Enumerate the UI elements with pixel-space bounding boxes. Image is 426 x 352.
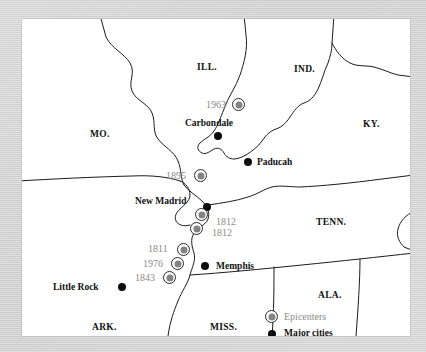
epicenter-year-1812-b: 1812 <box>212 228 232 238</box>
epicenter-marker-1843 <box>163 271 176 284</box>
city-dot-memphis <box>201 262 209 270</box>
border-kentucky-northeast <box>332 43 410 77</box>
legend-label-cities: Major cities <box>284 328 333 336</box>
epicenter-year-1811: 1811 <box>148 244 168 254</box>
river-mississippi-upper <box>100 19 184 185</box>
border-tennessee-east <box>397 211 410 251</box>
state-label-mo: MO. <box>90 130 110 140</box>
state-label-ill: ILL. <box>197 63 217 73</box>
city-dot-carbondale <box>214 132 222 140</box>
legend-city-icon <box>268 330 276 336</box>
epicenter-year-1812-a: 1812 <box>216 217 236 227</box>
epicenter-year-1843: 1843 <box>135 273 155 283</box>
state-label-ind: IND. <box>294 65 315 75</box>
city-label-little-rock: Little Rock <box>53 283 99 293</box>
river-ohio <box>198 19 247 159</box>
epicenter-marker-1812-b <box>190 222 203 235</box>
city-label-new-madrid: New Madrid <box>135 197 186 207</box>
city-label-memphis: Memphis <box>216 262 254 272</box>
border-kentucky-tennessee <box>208 175 410 205</box>
border-alabama-east <box>356 259 360 336</box>
state-label-ark: ARK. <box>92 323 117 333</box>
city-dot-paducah <box>244 158 252 166</box>
map-panel: ILL. IND. KY. MO. TENN. ARK. MISS. ALA. … <box>22 19 410 336</box>
state-label-tenn: TENN. <box>316 218 346 228</box>
border-missouri-arkansas <box>22 176 180 181</box>
state-label-ky: KY. <box>363 120 380 130</box>
epicenter-year-1895: 1895 <box>166 171 186 181</box>
border-kentucky-north <box>246 19 334 155</box>
state-label-ala: ALA. <box>318 291 342 301</box>
city-label-carbondale: Carbondale <box>185 119 233 129</box>
screenshot-frame: ILL. IND. KY. MO. TENN. ARK. MISS. ALA. … <box>0 0 426 352</box>
epicenter-year-1976: 1976 <box>143 259 163 269</box>
city-label-paducah: Paducah <box>257 158 292 168</box>
legend-epicenter-icon <box>265 310 278 323</box>
epicenter-marker-1895 <box>194 169 207 182</box>
epicenter-marker-1811 <box>177 243 190 256</box>
epicenter-marker-1812-a <box>195 208 208 221</box>
epicenter-year-1963: 1963 <box>206 100 226 110</box>
epicenter-marker-1963 <box>232 98 245 111</box>
legend-label-epicenters: Epicenters <box>284 311 326 322</box>
state-label-miss: MISS. <box>210 323 237 333</box>
city-dot-little-rock <box>118 283 126 291</box>
epicenter-marker-1976 <box>171 257 184 270</box>
border-mississippi-alabama <box>272 267 274 336</box>
